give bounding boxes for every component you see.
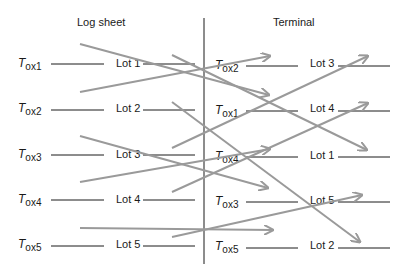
diagram-lines	[0, 0, 408, 276]
left-underlines	[51, 64, 195, 246]
right-underlines	[246, 66, 390, 248]
mapping-arrows	[80, 44, 368, 242]
